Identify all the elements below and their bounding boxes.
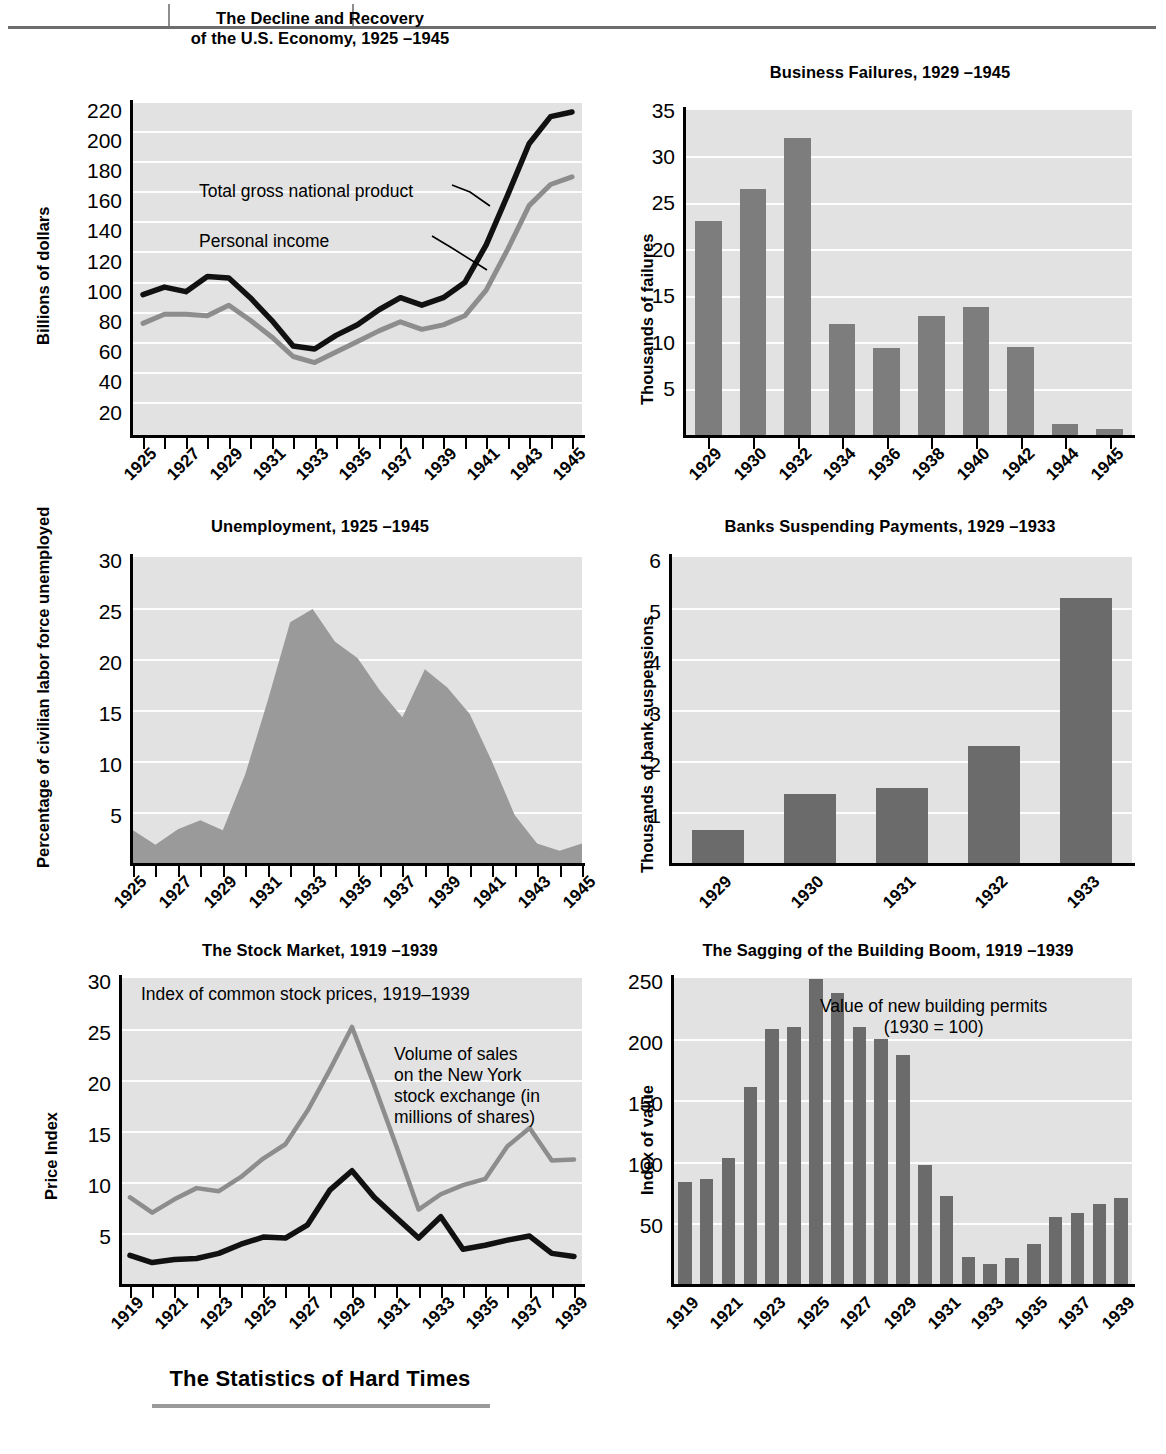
y-tick-label: 6 xyxy=(549,550,661,571)
x-tick-mark xyxy=(336,438,338,449)
y-tick-label: 30 xyxy=(563,146,675,167)
y-axis-line-unemployment xyxy=(130,554,133,866)
x-tick-label: 1933 xyxy=(1042,872,1104,934)
x-tick-mark xyxy=(285,1287,287,1298)
series-area-unemployment xyxy=(133,557,582,863)
x-tick-mark xyxy=(507,1287,509,1298)
y-tick-label: 100 xyxy=(551,1154,663,1175)
bar xyxy=(873,348,900,435)
bar xyxy=(940,1196,954,1284)
y-tick-label: 1 xyxy=(549,805,661,826)
y-tick-label: 10 xyxy=(563,332,675,353)
x-tick-mark xyxy=(515,866,517,877)
x-tick-mark xyxy=(560,866,562,877)
bar xyxy=(874,1039,888,1284)
y-tick-label: 10 xyxy=(0,1175,111,1196)
plot-area-banks xyxy=(672,557,1132,863)
chart-title-gnp-line1: The Decline and Recovery xyxy=(60,8,580,28)
y-tick-label: 120 xyxy=(10,251,122,272)
y-tick-label: 140 xyxy=(10,220,122,241)
bar xyxy=(787,1027,801,1284)
gridline xyxy=(674,1039,1132,1041)
y-tick-label: 25 xyxy=(0,1022,111,1043)
y-tick-label: 20 xyxy=(10,652,122,673)
bar xyxy=(1005,1258,1019,1284)
bar xyxy=(829,324,856,435)
y-axis-line-stocks xyxy=(119,975,122,1287)
bar xyxy=(1007,347,1034,435)
bar xyxy=(722,1158,736,1284)
annotation-stocks-index: Index of common stock prices, 1919–1939 xyxy=(141,984,470,1005)
bar xyxy=(918,1165,932,1284)
x-tick-mark xyxy=(552,1287,554,1298)
y-tick-label: 25 xyxy=(10,601,122,622)
bar xyxy=(784,138,811,435)
series-lines-stocks xyxy=(122,978,582,1284)
x-tick-mark xyxy=(293,438,295,449)
bar xyxy=(695,221,722,436)
y-tick-label: 35 xyxy=(563,100,675,121)
y-tick-label: 40 xyxy=(10,371,122,392)
y-tick-label: 200 xyxy=(10,130,122,151)
x-tick-mark xyxy=(419,1287,421,1298)
chart-title-unemployment: Unemployment, 1925 –1945 xyxy=(60,516,580,536)
bar xyxy=(740,189,767,435)
x-tick-mark xyxy=(463,1287,465,1298)
x-tick-mark xyxy=(330,1287,332,1298)
y-axis-line-gnp xyxy=(130,100,133,438)
bar xyxy=(765,1029,779,1284)
page-caption: The Statistics of Hard Times xyxy=(60,1366,580,1392)
x-tick-mark xyxy=(245,866,247,877)
bar xyxy=(784,794,836,863)
y-tick-label: 15 xyxy=(10,703,122,724)
x-tick-mark xyxy=(164,438,166,449)
y-tick-label: 30 xyxy=(10,550,122,571)
x-axis-line-failures xyxy=(683,435,1135,438)
gridline xyxy=(686,156,1132,158)
bar xyxy=(744,1087,758,1284)
y-tick-label: 50 xyxy=(551,1215,663,1236)
x-tick-mark xyxy=(207,438,209,449)
x-tick-mark xyxy=(425,866,427,877)
bar xyxy=(1049,1217,1063,1284)
bar xyxy=(692,830,744,863)
chart-title-stocks: The Stock Market, 1919 –1939 xyxy=(60,940,580,960)
annotation-stocks-volume: Volume of sales on the New York stock ex… xyxy=(394,1044,540,1128)
bar xyxy=(1052,424,1079,435)
y-axis-line-failures xyxy=(683,107,686,438)
y-tick-label: 220 xyxy=(10,100,122,121)
bar xyxy=(1114,1198,1128,1284)
y-tick-label: 15 xyxy=(563,285,675,306)
chart-title-failures: Business Failures, 1929 –1945 xyxy=(620,62,1160,82)
y-tick-label: 100 xyxy=(10,281,122,302)
y-tick-label: 30 xyxy=(0,971,111,992)
y-tick-label: 5 xyxy=(0,1226,111,1247)
y-tick-label: 150 xyxy=(551,1093,663,1114)
y-tick-label: 180 xyxy=(10,160,122,181)
y-tick-label: 20 xyxy=(0,1073,111,1094)
bar xyxy=(678,1182,692,1284)
x-tick-mark xyxy=(380,866,382,877)
y-tick-label: 15 xyxy=(0,1124,111,1145)
bar xyxy=(1060,598,1112,863)
bar xyxy=(968,746,1020,863)
x-axis-line-banks xyxy=(669,863,1135,866)
bar xyxy=(918,316,945,435)
x-tick-label: 1932 xyxy=(950,872,1012,934)
y-axis-line-building xyxy=(671,975,674,1287)
y-tick-label: 5 xyxy=(563,378,675,399)
bar xyxy=(1071,1213,1085,1284)
x-tick-mark xyxy=(508,438,510,449)
bar xyxy=(876,788,928,863)
x-tick-mark xyxy=(197,1287,199,1298)
x-tick-label: 1931 xyxy=(858,872,920,934)
chart-title-building: The Sagging of the Building Boom, 1919 –… xyxy=(610,940,1166,960)
bar xyxy=(983,1264,997,1284)
y-tick-label: 10 xyxy=(10,754,122,775)
plot-area-stocks xyxy=(122,978,582,1284)
y-tick-label: 60 xyxy=(10,341,122,362)
bar xyxy=(896,1055,910,1284)
y-tick-label: 25 xyxy=(563,192,675,213)
x-axis-line-building xyxy=(671,1284,1135,1287)
chart-title-banks: Banks Suspending Payments, 1929 –1933 xyxy=(620,516,1160,536)
